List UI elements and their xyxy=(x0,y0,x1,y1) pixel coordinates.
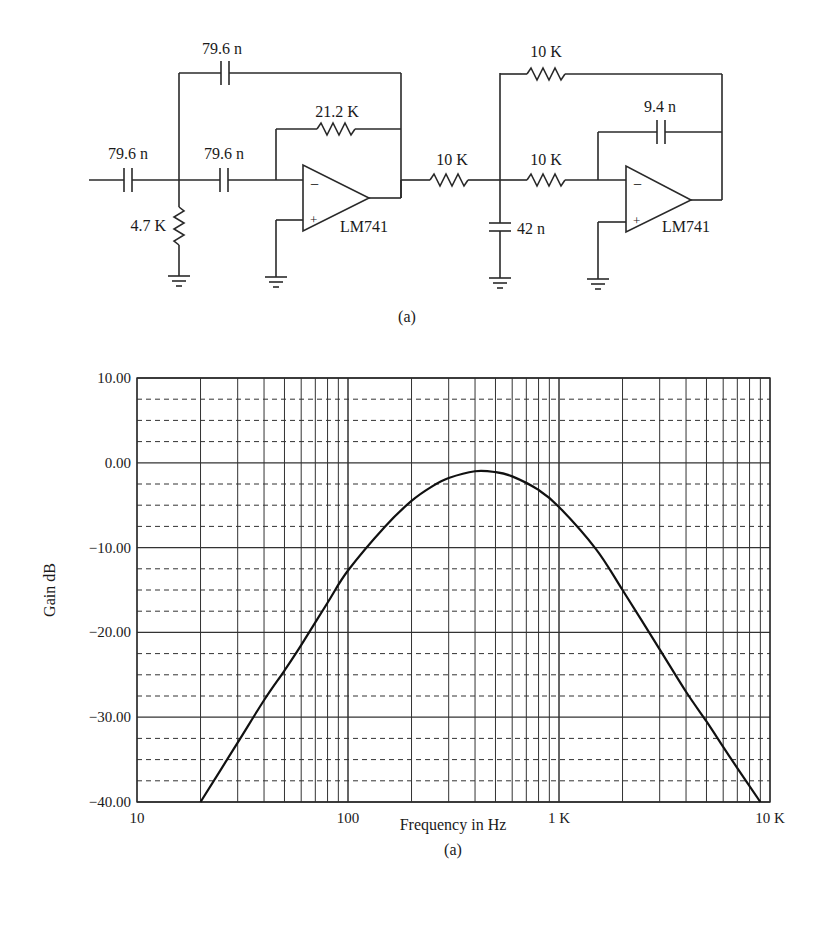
gain-frequency-chart: 10.000.00−10.00−20.00−30.00−40.00 101001… xyxy=(0,330,815,926)
y-tick-label: −10.00 xyxy=(89,540,131,556)
opamp1-label: LM741 xyxy=(340,218,388,235)
opamp1-plus-sign: + xyxy=(310,212,317,227)
opamp2-plus-sign: + xyxy=(633,213,640,228)
circuit-diagram: 79.6 n 79.6 n 79.6 n 21.2 K 4.7 K − + LM… xyxy=(0,0,815,330)
stage1-shunt-res-label: 4.7 K xyxy=(130,217,166,234)
y-tick-label: −30.00 xyxy=(89,709,131,725)
stage1-series-cap-label: 79.6 n xyxy=(204,145,244,162)
x-axis-label: Frequency in Hz xyxy=(400,816,507,834)
stage1-feedback-res-label: 21.2 K xyxy=(315,103,359,120)
stage2-feedback-res-label: 10 K xyxy=(530,43,562,60)
stage1-input-cap-label: 79.6 n xyxy=(108,145,148,162)
y-tick-label: 0.00 xyxy=(105,455,131,471)
chart-caption: (a) xyxy=(444,841,462,859)
x-tick-label: 10 xyxy=(130,810,145,826)
chart-grid xyxy=(137,378,770,802)
opamp2-label: LM741 xyxy=(662,218,710,235)
opamp1-minus-sign: − xyxy=(310,176,319,193)
stage2-input-res-label: 10 K xyxy=(530,151,562,168)
x-tick-label: 100 xyxy=(337,810,360,826)
x-tick-label: 1 K xyxy=(548,810,570,826)
stage1-feedback-cap-label: 79.6 n xyxy=(202,40,242,57)
circuit-caption: (a) xyxy=(398,308,416,326)
coupling-res-label: 10 K xyxy=(436,151,468,168)
y-tick-label: 10.00 xyxy=(97,370,131,386)
y-tick-labels: 10.000.00−10.00−20.00−30.00−40.00 xyxy=(89,370,131,810)
stage2-feedback-cap-label: 9.4 n xyxy=(644,98,676,115)
opamp2-minus-sign: − xyxy=(633,176,642,193)
y-axis-label: Gain dB xyxy=(41,563,58,617)
y-tick-label: −20.00 xyxy=(89,624,131,640)
stage2-shunt-cap-label: 42 n xyxy=(517,220,545,237)
x-tick-label: 10 K xyxy=(755,810,785,826)
y-tick-label: −40.00 xyxy=(89,794,131,810)
